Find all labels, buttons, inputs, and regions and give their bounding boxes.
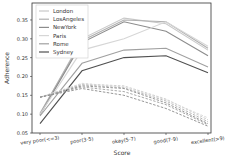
legend-label: Sydney (53, 49, 74, 56)
y-tick-label: 0.25 (17, 55, 28, 61)
x-tick-label: poor(3-5) (70, 135, 94, 145)
legend-label: Rome (53, 41, 69, 47)
y-tick-label: 0.35 (17, 17, 28, 23)
legend-label: London (53, 8, 74, 14)
legend-label: LosAngeles (53, 16, 84, 23)
chart-canvas: 0.050.100.150.200.250.300.35 very poor(<… (0, 0, 233, 159)
x-tick-label: excellent(>9) (190, 135, 224, 146)
adherence-line-chart: 0.050.100.150.200.250.300.35 very poor(<… (0, 0, 233, 159)
x-tick-label: good(7-9) (153, 135, 178, 145)
y-axis: 0.050.100.150.200.250.300.35 (17, 17, 32, 136)
x-tick-label: okay(5-7) (111, 135, 136, 145)
x-tick-label: very poor(<=3) (20, 134, 60, 146)
y-tick-label: 0.20 (17, 73, 28, 79)
y-tick-label: 0.05 (17, 130, 28, 136)
legend: LondonLosAngelesNewYorkParisRomeSydney (36, 5, 88, 58)
y-tick-label: 0.15 (17, 92, 28, 98)
x-axis: very poor(<=3)poor(3-5)okay(5-7)good(7-9… (20, 133, 225, 147)
y-axis-label: Adherence (3, 52, 10, 84)
x-axis-label: Score (114, 149, 131, 156)
legend-label: Paris (53, 33, 66, 39)
legend-label: NewYork (53, 24, 77, 30)
y-tick-label: 0.10 (17, 111, 28, 117)
y-tick-label: 0.30 (17, 36, 28, 42)
series-line-rome (40, 48, 208, 116)
